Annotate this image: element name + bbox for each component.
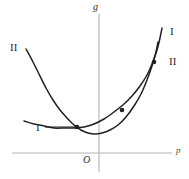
y-axis-label: g (93, 2, 98, 12)
curve-i-right-label: I (170, 26, 174, 37)
intersection-dot (152, 60, 157, 65)
x-axis-label: p (176, 146, 181, 155)
curves-group (24, 28, 162, 134)
curve-ii-right-label: II (169, 56, 176, 67)
curve-ii-left-label: II (10, 42, 17, 53)
intersection-dot (120, 108, 125, 113)
axes-group (12, 14, 172, 172)
intersection-dot (75, 125, 80, 130)
curve-i-left-label: I (36, 122, 40, 133)
origin-label: O (83, 155, 90, 165)
intersection-dots-group (75, 60, 157, 130)
gibbs-energy-pressure-figure (0, 0, 189, 179)
curve-i-path (24, 28, 162, 128)
